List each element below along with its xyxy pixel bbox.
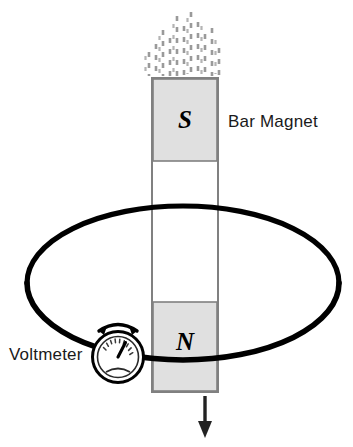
bar-magnet-label: Bar Magnet: [228, 112, 318, 132]
magnet-motion-arrow-group: [198, 396, 212, 438]
motion-arrow-head: [198, 421, 212, 438]
magnet-south-pole-letter: S: [152, 106, 218, 134]
voltmeter-gauge-group[interactable]: [93, 325, 144, 383]
field-line-dashes: [149, 12, 219, 76]
diagram-vector-layer: [0, 0, 353, 447]
physics-diagram-canvas: S N Bar Magnet Voltmeter: [0, 0, 353, 447]
voltmeter-label: Voltmeter: [9, 345, 83, 365]
magnet-north-pole-letter: N: [152, 328, 218, 356]
magnetic-field-lines-group: [146, 12, 220, 76]
